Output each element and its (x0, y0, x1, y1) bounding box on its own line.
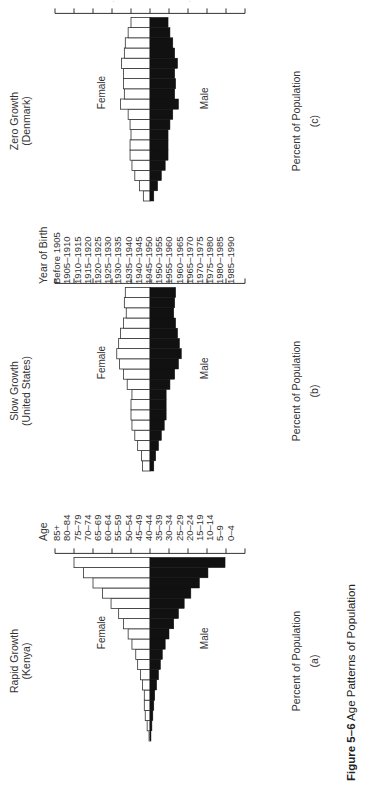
male-bar (150, 109, 173, 119)
female-bar (135, 170, 150, 180)
panel-kenya: Rapid Growth (Kenya) 1086420246810Female… (0, 541, 320, 781)
male-bar (150, 89, 175, 99)
x-axis-label-kenya: Percent of Population (290, 541, 302, 781)
male-bar (150, 287, 176, 297)
male-bar (150, 181, 158, 191)
female-bar (124, 89, 150, 99)
age-labels: Age 85+80–8475–7970–7465–6960–6455–5950–… (38, 515, 236, 541)
female-bar (120, 359, 150, 369)
x-axis-label-us: Percent of Population (290, 271, 302, 511)
female-bar (84, 568, 151, 578)
female-bar (136, 649, 150, 659)
female-bar (132, 639, 150, 649)
female-bar (123, 369, 150, 379)
female-bar (125, 38, 150, 48)
male-bar (150, 318, 176, 328)
female-bar (124, 48, 150, 58)
pyramid-chart-denmark: 1086420246810FemaleMale (0, 1, 320, 241)
male-bar (150, 690, 155, 700)
panel-united-states: Slow Growth (United States) 108642024681… (0, 271, 320, 511)
female-bar (147, 721, 150, 731)
female-label: Female (96, 345, 107, 379)
female-bar (130, 150, 150, 160)
male-bar (150, 400, 166, 410)
female-bar (132, 420, 150, 430)
female-bar (121, 328, 150, 338)
female-label: Female (96, 615, 107, 649)
female-bar (142, 461, 150, 471)
female-bar (127, 379, 150, 389)
male-bar (150, 68, 175, 78)
male-bar (150, 568, 208, 578)
female-bar (123, 79, 150, 89)
male-bar (150, 140, 168, 150)
male-bar (150, 17, 168, 27)
male-bar (150, 191, 154, 201)
male-bar (150, 48, 175, 58)
male-bar (150, 680, 157, 690)
male-bar (150, 710, 153, 720)
female-bar (141, 451, 150, 461)
female-bar (141, 670, 151, 680)
female-bar (119, 338, 150, 348)
male-bar (150, 557, 225, 567)
male-bar (150, 588, 191, 598)
female-bar (138, 659, 150, 669)
female-bar (123, 318, 150, 328)
female-bar (130, 119, 150, 129)
female-bar (144, 690, 150, 700)
male-bar (150, 410, 166, 420)
male-bar (150, 461, 154, 471)
panel-letter-a: (a) (308, 541, 320, 781)
female-bar (117, 349, 150, 359)
male-bar (150, 430, 161, 440)
figure-rotated-stage: Rapid Growth (Kenya) 1086420246810Female… (0, 0, 369, 789)
female-bar (131, 410, 150, 420)
panel-denmark: Zero Growth (Denmark) 1086420246810Femal… (0, 1, 320, 241)
female-bar (142, 680, 150, 690)
female-bar (121, 99, 150, 109)
pyramid-chart-us: 1086420246810FemaleMale (0, 271, 320, 511)
male-bar (150, 369, 175, 379)
female-bar (138, 440, 150, 450)
male-bar (150, 359, 179, 369)
male-bar (150, 451, 156, 461)
female-bar (93, 578, 150, 588)
male-bar (150, 328, 178, 338)
male-label: Male (199, 87, 210, 109)
male-bar (150, 578, 199, 588)
pyramid-chart-kenya: 1086420246810FemaleMale (0, 541, 320, 781)
female-bar (123, 68, 150, 78)
male-bar (150, 420, 164, 430)
female-bar (145, 710, 150, 720)
age-header: Age (38, 515, 48, 541)
male-bar (150, 598, 184, 608)
female-bar (128, 629, 150, 639)
male-bar (150, 349, 181, 359)
male-bar (150, 79, 176, 89)
male-bar (150, 38, 173, 48)
female-bar (130, 140, 150, 150)
male-bar (150, 99, 179, 109)
female-bar (128, 109, 150, 119)
female-bar (111, 598, 150, 608)
female-bar (123, 619, 150, 629)
male-bar (150, 130, 168, 140)
female-bar (132, 160, 150, 170)
female-bar (144, 700, 150, 710)
female-label: Female (96, 75, 107, 109)
female-bar (74, 557, 150, 567)
male-bar (150, 619, 174, 629)
male-bar (150, 721, 152, 731)
female-bar (126, 308, 150, 318)
female-bar (125, 287, 150, 297)
male-bar (150, 298, 175, 308)
male-bar (150, 338, 179, 348)
age-list: 85+80–8475–7970–7465–6960–6455–5950–5445… (52, 515, 236, 541)
male-bar (150, 639, 165, 649)
female-bar (132, 389, 150, 399)
male-bar (150, 160, 165, 170)
male-bar (150, 700, 154, 710)
female-bar (128, 28, 150, 38)
male-bar (150, 440, 159, 450)
